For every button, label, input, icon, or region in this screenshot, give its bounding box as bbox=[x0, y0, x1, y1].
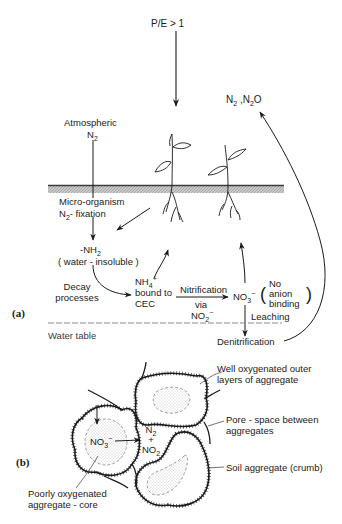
via-label: via bbox=[195, 299, 207, 310]
water-insoluble-label: ( water - insoluble ) bbox=[58, 256, 139, 267]
ammonium-label: NH4+ bound to CEC bbox=[135, 276, 172, 309]
close-paren: ) bbox=[306, 285, 312, 303]
plant-icon bbox=[208, 145, 246, 220]
outer-layer-callout: Well oxygenated outer layers of aggregat… bbox=[217, 363, 311, 385]
nitrification-label: Nitrification bbox=[180, 284, 227, 295]
leaching-label: Leaching bbox=[251, 311, 290, 322]
nitrate-label: NO3− bbox=[233, 291, 255, 302]
no-anion-binding-label: No anion binding bbox=[269, 279, 300, 309]
water-table-label: Water table bbox=[48, 330, 96, 341]
micro-organism-label: Micro-organism bbox=[59, 196, 124, 207]
denitrification-products-label: N2 + NO2 bbox=[138, 425, 164, 455]
core-nitrate-label: NO3− bbox=[90, 436, 112, 447]
panel-b-label: (b) bbox=[16, 456, 29, 468]
ammonium-uptake-arrow bbox=[154, 250, 168, 278]
litter-return-arrow bbox=[117, 208, 150, 230]
precipitation-ratio-label: P/E > 1 bbox=[151, 18, 184, 29]
decay-processes-label: Decay processes bbox=[52, 281, 102, 303]
aggregate-top bbox=[135, 373, 207, 426]
soil-surface bbox=[48, 186, 284, 194]
nitrogen-cycle-diagram bbox=[0, 0, 342, 524]
atmospheric-n2-label: N2 bbox=[87, 129, 98, 140]
denitrification-label: Denitrification bbox=[217, 336, 275, 347]
soil-aggregate-callout: Soil aggregate (crumb) bbox=[226, 462, 323, 473]
gaseous-products-label: N2 ,N2O bbox=[226, 94, 262, 105]
n2-fixation-label: N2- fixation bbox=[59, 208, 106, 219]
pore-space-callout: Pore - space between aggregates bbox=[226, 414, 318, 436]
organic-nitrogen-label: -NH2 bbox=[80, 244, 101, 255]
aggregate-core-callout: Poorly oxygenated aggregate - core bbox=[28, 488, 107, 510]
open-paren: ( bbox=[260, 285, 266, 303]
atmospheric-label: Atmospheric bbox=[64, 117, 117, 128]
plant-icon bbox=[155, 134, 191, 222]
nitrite-label: NO2− bbox=[191, 310, 213, 321]
nitrate-uptake-arrow bbox=[241, 243, 245, 283]
panel-a-label: (a) bbox=[12, 307, 25, 319]
